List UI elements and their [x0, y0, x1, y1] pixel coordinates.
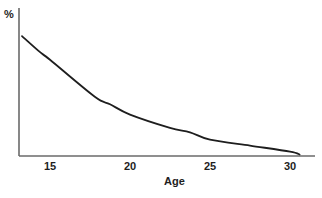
x-tick-label: 20 [124, 160, 136, 172]
x-tick-label: 25 [204, 160, 216, 172]
data-curve [22, 36, 300, 154]
x-tick-label: 30 [284, 160, 296, 172]
x-axis-label: Age [164, 175, 185, 187]
y-axis-label: % [4, 8, 14, 20]
x-tick-label: 15 [44, 160, 56, 172]
